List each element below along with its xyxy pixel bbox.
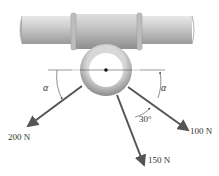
force-arrow-200 [28,86,82,126]
force-arrow-100 [128,87,188,130]
force-arrow-150 [117,95,144,165]
force-label-200: 200 N [8,132,30,142]
center-point [104,68,108,72]
angle-arc-left [57,70,62,99]
angle-30-label: 30° [139,114,152,124]
force-label-150: 150 N [148,155,170,165]
angle-alpha-left: α [43,82,48,93]
diagram-graphic [0,0,219,176]
angle-alpha-right: α [161,82,166,93]
force-label-100: 100 N [190,126,212,136]
statics-diagram: α α 30° 200 N 150 N 100 N [0,0,219,176]
